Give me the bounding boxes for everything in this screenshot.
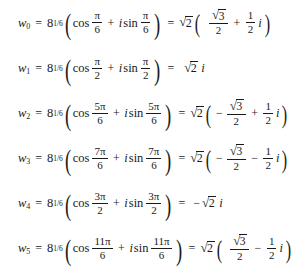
sin-fraction: 5π6 (146, 101, 161, 126)
plus-operator: + (110, 106, 124, 121)
sin-numerator: π (141, 56, 151, 68)
real-denominator: 2 (227, 159, 246, 172)
imag-fraction: 12 (267, 236, 277, 261)
real-denominator: 2 (209, 23, 228, 36)
cos-denominator: 6 (92, 158, 107, 171)
cos-fraction: 11π6 (92, 236, 112, 261)
cos-fraction: 7π6 (92, 146, 107, 171)
variable-label: w2 (18, 106, 30, 121)
real-numerator: √3 (227, 144, 246, 159)
real-denominator: 2 (230, 249, 249, 262)
exponent: 1/6 (53, 109, 63, 118)
variable-label: w3 (18, 151, 30, 166)
sqrt-radicand: 2 (208, 196, 216, 210)
exponent: 1/6 (53, 154, 63, 163)
cos-denominator: 6 (92, 248, 112, 261)
plus-operator: + (104, 61, 118, 76)
sin-numerator: π (141, 10, 151, 22)
plus-operator: + (104, 16, 118, 31)
imaginary-unit: i (275, 106, 280, 121)
cos-numerator: 7π (92, 146, 107, 158)
cos-numerator: π (92, 10, 102, 22)
plus-operator: + (110, 151, 124, 166)
cos-label: cos (73, 196, 91, 211)
sqrt-radicand: 3 (236, 99, 244, 113)
equals-sign: = (30, 106, 47, 121)
equals-sign-2: = (184, 241, 201, 256)
sqrt-three: √3 (232, 234, 247, 248)
sqrt-radicand: 3 (239, 234, 247, 248)
sin-denominator: 6 (141, 22, 151, 35)
cos-numerator: 11π (92, 236, 112, 248)
sqrt-two: √2 (190, 106, 204, 120)
radical-icon: √ (184, 61, 191, 74)
sin-fraction: 11π6 (151, 236, 171, 261)
exponent: 1/6 (53, 244, 63, 253)
plus-operator: + (110, 196, 124, 211)
cos-label: cos (73, 151, 91, 166)
result-sign: − (190, 196, 202, 211)
cos-denominator: 6 (92, 22, 102, 35)
equation-sheet: w0 = 81/6 ( cos π6 + i sin π6 ) = √2 ( √… (0, 0, 307, 276)
real-numerator: √3 (227, 99, 246, 114)
sqrt-radicand: 2 (196, 106, 204, 120)
imag-numerator: 1 (246, 10, 256, 22)
real-fraction: √32 (230, 234, 249, 262)
cos-fraction: 5π6 (92, 101, 107, 126)
radical-icon: √ (230, 144, 237, 157)
imag-fraction: 12 (263, 101, 273, 126)
imag-denominator: 2 (267, 248, 277, 261)
sin-label: sin (123, 61, 139, 76)
variable-label: w1 (18, 61, 30, 76)
equals-sign-2: = (173, 151, 190, 166)
imag-operator: + (248, 106, 262, 121)
equals-sign-2: = (173, 106, 190, 121)
imaginary-unit: i (200, 61, 205, 76)
sin-denominator: 2 (141, 68, 151, 81)
imag-denominator: 2 (263, 113, 273, 126)
variable-label: w0 (18, 16, 30, 31)
real-denominator: 2 (227, 114, 246, 127)
cos-label: cos (73, 106, 91, 121)
cos-fraction: π6 (92, 10, 102, 35)
sin-denominator: 6 (146, 158, 161, 171)
cos-fraction: 3π2 (92, 191, 107, 216)
equals-sign: = (30, 241, 47, 256)
real-sign: − (213, 151, 225, 166)
cos-numerator: π (92, 56, 102, 68)
equals-sign: = (30, 61, 47, 76)
equation-row: w5 = 81/6 ( cos 11π6 + i sin 11π6 ) = √2… (0, 226, 307, 271)
sin-denominator: 6 (151, 248, 171, 261)
cos-denominator: 2 (92, 203, 107, 216)
sqrt-radicand: 2 (190, 61, 198, 75)
cos-numerator: 5π (92, 101, 107, 113)
sqrt-two: √2 (179, 16, 193, 30)
equals-sign-2: = (173, 196, 190, 211)
radical-icon: √ (190, 106, 197, 119)
sqrt-two: √2 (184, 61, 198, 75)
sqrt-three: √3 (229, 99, 244, 113)
sqrt-radicand: 3 (236, 144, 244, 158)
imaginary-unit: i (278, 241, 283, 256)
sin-fraction: 3π2 (146, 191, 161, 216)
cos-label: cos (73, 61, 91, 76)
imaginary-unit: i (218, 196, 223, 211)
sin-fraction: 7π6 (146, 146, 161, 171)
imag-numerator: 1 (267, 236, 277, 248)
real-fraction: √32 (227, 144, 246, 172)
real-numerator: √3 (209, 9, 228, 24)
sqrt-two: √2 (200, 241, 214, 255)
imag-numerator: 1 (263, 101, 273, 113)
imag-fraction: 12 (263, 146, 273, 171)
radical-icon: √ (190, 151, 197, 164)
sin-numerator: 3π (146, 191, 161, 203)
sin-label: sin (129, 106, 145, 121)
variable-label: w4 (18, 196, 30, 211)
equals-sign-2: = (162, 61, 179, 76)
sin-label: sin (129, 151, 145, 166)
cos-denominator: 2 (92, 68, 102, 81)
equation-row: w2 = 81/6 ( cos 5π6 + i sin 5π6 ) = √2 (… (0, 91, 307, 136)
imag-fraction: 12 (246, 10, 256, 35)
equation-row: w4 = 81/6 ( cos 3π2 + i sin 3π2 ) = − √2… (0, 181, 307, 226)
radical-icon: √ (200, 241, 207, 254)
